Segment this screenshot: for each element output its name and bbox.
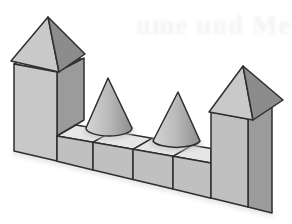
cone-2-body [153,92,200,147]
right-tower-right-face [248,106,272,213]
cone-1 [83,78,135,140]
cone-1-body [86,78,132,136]
right-tower-front-face [211,112,248,207]
scanned-page: ume und Me [0,0,292,224]
right-tower [209,66,283,213]
left-tower-front-face [14,64,57,161]
castle-figure [0,0,292,224]
cone-2 [149,92,203,152]
